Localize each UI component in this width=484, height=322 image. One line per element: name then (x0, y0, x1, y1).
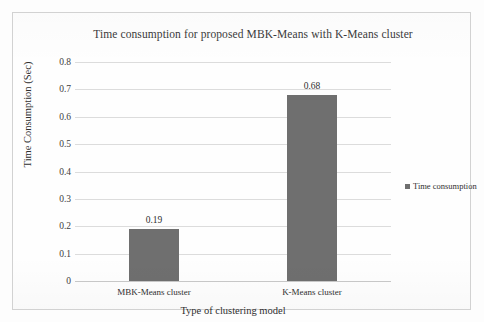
bar[interactable] (287, 95, 337, 281)
gridline (75, 89, 391, 90)
x-axis-tick-label: K-Means cluster (247, 287, 377, 297)
y-axis-tick-labels: 0.80.70.60.50.40.30.20.10 (27, 62, 71, 281)
chart-screenshot: Time consumption for proposed MBK-Means … (0, 0, 484, 322)
y-axis-tick-label: 0.3 (31, 194, 71, 204)
gridline (75, 199, 391, 200)
gridline (75, 254, 391, 255)
bar[interactable] (129, 229, 179, 281)
x-axis-tick-label: MBK-Means cluster (89, 287, 219, 297)
square-marker-icon (405, 184, 410, 189)
y-axis-tick-label: 0.2 (31, 221, 71, 231)
y-axis-tick-label: 0 (31, 276, 71, 286)
plot-area (75, 62, 391, 281)
gridline (75, 172, 391, 173)
x-axis-title: Type of clustering model (75, 305, 391, 316)
legend-label: Time consumption (413, 181, 477, 191)
y-axis-tick-label: 0.5 (31, 139, 71, 149)
bar-value-label: 0.19 (124, 215, 184, 225)
y-axis-tick-label: 0.6 (31, 112, 71, 122)
y-axis-tick-label: 0.7 (31, 84, 71, 94)
bar-value-label: 0.68 (282, 81, 342, 91)
gridline (75, 144, 391, 145)
chart-frame: Time consumption for proposed MBK-Means … (12, 12, 471, 310)
y-axis-tick-label: 0.8 (31, 57, 71, 67)
chart-legend: Time consumption (405, 181, 477, 191)
gridline (75, 281, 391, 282)
gridline (75, 62, 391, 63)
gridline (75, 226, 391, 227)
gridline (75, 117, 391, 118)
y-axis-tick-label: 0.1 (31, 249, 71, 259)
y-axis-tick-label: 0.4 (31, 167, 71, 177)
chart-title: Time consumption for proposed MBK-Means … (53, 28, 453, 40)
